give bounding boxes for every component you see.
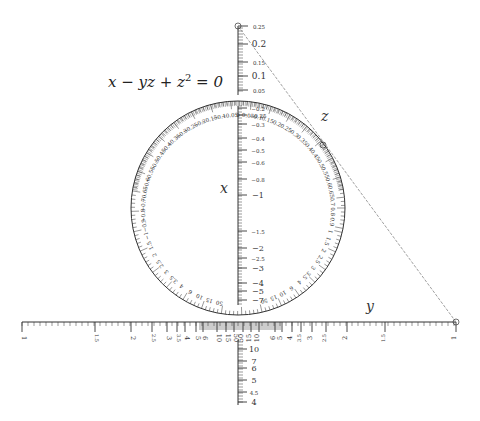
circle-tick: [133, 227, 137, 228]
circle-fine-tick: [207, 106, 208, 111]
circle-fine-tick: [212, 104, 213, 109]
circle-tick: [209, 307, 210, 311]
isopleth-line: [238, 26, 456, 322]
circle-tick: [260, 304, 262, 312]
circle-tick: [319, 265, 326, 270]
circle-fine-tick: [218, 103, 219, 108]
x-inner-label: −0.6: [251, 160, 265, 166]
circle-fine-tick: [201, 107, 203, 112]
circle-fine-tick: [186, 114, 188, 118]
circle-tick: [217, 309, 218, 313]
circle-left-label: −1: [143, 231, 151, 240]
circle-fine-tick: [189, 113, 191, 117]
x-inner-label: −0.3: [251, 122, 265, 128]
y-scale-left-label: 4: [183, 336, 191, 340]
circle-left-label: 3.5: [168, 274, 179, 285]
circle-tick: [194, 302, 196, 306]
x-lower-label: 5: [251, 376, 256, 385]
circle-tick: [326, 261, 329, 263]
circle-tick: [276, 304, 277, 308]
circle-fine-tick: [294, 118, 297, 122]
circle-fine-tick: [185, 115, 188, 119]
circle-tick: [132, 223, 136, 224]
circle-fine-tick: [144, 158, 148, 160]
circle-left-label: 15: [205, 296, 214, 304]
circle-tick: [134, 230, 142, 232]
circle-tick: [135, 235, 139, 236]
circle-tick: [326, 158, 333, 162]
y-scale-right-label: 1: [450, 336, 458, 340]
circle-fine-tick: [249, 102, 250, 107]
circle-left-label: 2.5: [155, 258, 165, 269]
circle-tick: [161, 279, 164, 282]
circle-fine-tick: [133, 186, 138, 187]
circle-tick: [146, 260, 149, 262]
circle-fine-tick: [138, 170, 143, 172]
circle-fine-tick: [133, 188, 138, 189]
circle-fine-tick: [225, 102, 226, 107]
y-scale-right-label: 1.5: [380, 334, 386, 342]
circle-left-label: 3: [162, 269, 169, 276]
circle-left-label: 2: [151, 252, 158, 258]
circle-tick: [138, 171, 146, 174]
circle-fine-tick: [325, 153, 329, 156]
y-scale-left-label: 3: [165, 336, 173, 340]
circle-right-label: 10: [278, 289, 287, 298]
x-inner-label: −2.5: [251, 256, 265, 262]
circle-tick: [198, 303, 200, 307]
circle-tick: [146, 153, 153, 157]
circle-left-label: 10: [195, 292, 204, 301]
x-inner-label: −7: [252, 296, 264, 305]
circle-tick: [142, 253, 146, 255]
circle-tick: [140, 248, 147, 251]
z-scale-label: 0.05: [253, 88, 266, 94]
circle-fine-tick: [336, 179, 341, 180]
y-scale-right-label: 5: [276, 336, 284, 340]
circle-fine-tick: [283, 112, 285, 116]
circle-tick: [219, 103, 220, 107]
circle-fine-tick: [281, 111, 283, 116]
circle-tick: [213, 308, 214, 312]
x-inner-label: −0.8: [251, 177, 265, 183]
circle-tick: [320, 271, 323, 273]
circle-tick: [179, 294, 181, 297]
y-scale-right-label: 2.5: [321, 334, 327, 342]
circle-fine-tick: [219, 103, 220, 108]
circle-fine-tick: [180, 118, 183, 122]
circle-tick: [315, 277, 318, 280]
x-inner-label: −0.2: [251, 106, 264, 112]
equation-label: x − yz + z2 = 0: [108, 72, 223, 91]
circle-tick: [335, 227, 343, 229]
nomogram-canvas: −0.05−0.1−0.15−0.2−0.25−0.3−0.35−0.4−0.4…: [0, 0, 480, 421]
x-inner-label: −0.5: [251, 148, 265, 154]
y-scale-left-label: 10: [215, 334, 223, 342]
circle-fine-tick: [221, 102, 222, 107]
nomogram: −0.05−0.1−0.15−0.2−0.25−0.3−0.35−0.4−0.4…: [0, 0, 480, 421]
circle-fine-tick: [191, 112, 193, 116]
y-scale-left-label: 1.5: [94, 334, 100, 342]
circle-left-label: 6: [187, 288, 193, 295]
y-scale-right-label: 50: [237, 334, 245, 342]
circle-right-label: 15: [269, 294, 278, 302]
circle-fine-tick: [337, 184, 342, 185]
y-scale-left-label: 1: [20, 336, 28, 340]
circle-tick: [328, 249, 335, 252]
x-axis-label: x: [220, 180, 228, 196]
x-inner-label: −1.5: [251, 229, 265, 235]
circle-fine-tick: [330, 163, 335, 165]
circle-fine-tick: [337, 182, 342, 183]
circle-tick: [186, 298, 188, 302]
circle-tick: [330, 254, 334, 256]
circle-fine-tick: [271, 107, 273, 112]
x-inner-label: −5: [252, 287, 264, 296]
circle-tick: [273, 305, 274, 309]
y-scale-left-label: 5: [194, 336, 202, 340]
circle-tick: [290, 297, 292, 300]
circle-tick: [173, 290, 175, 293]
circle-fine-tick: [209, 105, 210, 110]
circle-tick: [253, 310, 254, 314]
equation-text: x − yz + z: [108, 73, 185, 91]
circle-tick: [309, 282, 312, 285]
circle-right-label: 0.7: [329, 197, 336, 207]
circle-tick: [265, 307, 266, 311]
